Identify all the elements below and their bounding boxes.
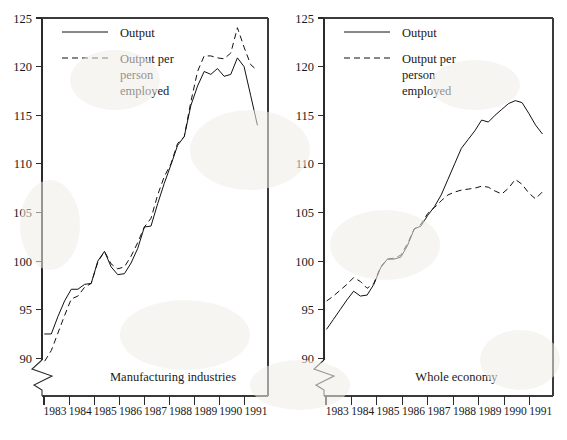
series-line-output-per-person (327, 179, 543, 301)
chart-figure: 9095100105110115120125198319841985198619… (0, 0, 567, 440)
y-tick-label: 95 (302, 303, 315, 317)
y-tick-label: 90 (302, 352, 315, 366)
y-tick-label: 100 (13, 255, 32, 269)
legend-label-output-per-person: person (120, 68, 154, 82)
y-tick-label: 115 (14, 109, 32, 123)
x-tick-label: 1983 (326, 405, 349, 417)
y-tick-label: 120 (295, 60, 314, 74)
panel-caption: Whole economy (415, 370, 498, 384)
legend-label-output: Output (120, 26, 155, 40)
x-tick-label: 1986 (119, 405, 142, 417)
x-tick-label: 1984 (351, 405, 374, 417)
x-tick-label: 1987 (428, 405, 451, 417)
x-tick-label: 1991 (244, 405, 267, 417)
legend-label-output-per-person: Output per (402, 52, 457, 66)
x-tick-label: 1991 (529, 405, 552, 417)
series-line-output (45, 58, 258, 334)
y-tick-label: 125 (295, 12, 314, 26)
dual-line-chart: 9095100105110115120125198319841985198619… (0, 0, 567, 440)
x-tick-label: 1985 (94, 405, 117, 417)
legend-label-output-per-person: person (402, 68, 436, 82)
y-tick-label: 125 (13, 12, 32, 26)
x-tick-label: 1987 (144, 405, 167, 417)
y-tick-label: 95 (20, 303, 33, 317)
y-tick-label: 115 (296, 109, 314, 123)
x-tick-label: 1986 (402, 405, 425, 417)
chart-panel-right: 9095100105110115120125198319841985198619… (295, 12, 553, 418)
x-tick-label: 1985 (377, 405, 400, 417)
chart-panel-left: 9095100105110115120125198319841985198619… (13, 12, 268, 418)
y-tick-label: 105 (295, 206, 314, 220)
x-tick-label: 1989 (194, 405, 217, 417)
y-tick-label: 105 (13, 206, 32, 220)
legend-label-output-per-person: employed (120, 84, 170, 98)
x-tick-label: 1990 (219, 405, 242, 417)
legend-label-output: Output (402, 26, 437, 40)
y-tick-label: 90 (20, 352, 33, 366)
x-tick-label: 1989 (478, 405, 501, 417)
x-tick-label: 1988 (169, 405, 192, 417)
y-tick-label: 110 (14, 157, 32, 171)
series-line-output (327, 101, 543, 329)
legend-label-output-per-person: employed (402, 84, 452, 98)
x-tick-label: 1984 (69, 405, 92, 417)
y-tick-label: 100 (295, 255, 314, 269)
panel-caption: Manufacturing industries (110, 370, 236, 384)
x-tick-label: 1988 (453, 405, 476, 417)
y-tick-label: 110 (296, 157, 314, 171)
x-tick-label: 1983 (44, 405, 67, 417)
x-tick-label: 1990 (504, 405, 527, 417)
y-tick-label: 120 (13, 60, 32, 74)
legend-label-output-per-person: Output per (120, 52, 175, 66)
